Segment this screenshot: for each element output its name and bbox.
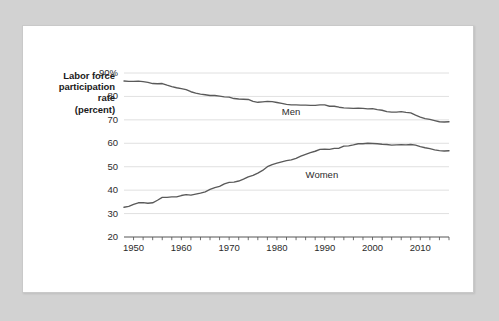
x-axis-tick-label: 2000: [353, 243, 393, 253]
gridlines: [124, 73, 449, 214]
x-axis-tick-label: 1970: [209, 243, 249, 253]
x-axis-tick-label: 1990: [305, 243, 345, 253]
series-annotation-women: Women: [306, 169, 339, 180]
plot-canvas: [23, 26, 475, 294]
x-axis-tick-label: 1950: [114, 243, 154, 253]
page-background: Labor force participation rate (percent)…: [0, 0, 499, 321]
chart-card: Labor force participation rate (percent)…: [22, 25, 474, 293]
y-axis-tick-label: 20: [92, 232, 118, 242]
y-axis-title-line-4: (percent): [37, 104, 115, 115]
series-annotation-men: Men: [282, 106, 300, 117]
y-axis-tick-label: 50: [92, 162, 118, 172]
y-axis-tick-label: 80: [92, 91, 118, 101]
y-axis-tick-label: 60: [92, 138, 118, 148]
series-line-women: [124, 143, 449, 207]
x-axis-tick-label: 1980: [257, 243, 297, 253]
x-axis-tick-label: 1960: [161, 243, 201, 253]
y-axis-tick-label: 70: [92, 115, 118, 125]
y-axis-tick-label: 30: [92, 209, 118, 219]
chart-area: Labor force participation rate (percent)…: [23, 26, 475, 294]
x-axis-tick-label: 2010: [400, 243, 440, 253]
y-axis-tick-label: 40: [92, 185, 118, 195]
y-axis-tick-label: 90%: [92, 68, 118, 78]
